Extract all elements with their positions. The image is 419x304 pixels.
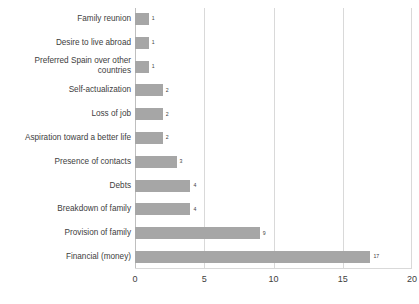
bar-value-label: 1 — [152, 40, 155, 45]
category-label: Self-actualization — [0, 85, 131, 95]
bar-row: 1 — [135, 61, 419, 73]
bar — [135, 84, 163, 96]
x-tick-label: 15 — [338, 274, 348, 284]
bar-row: 4 — [135, 180, 419, 192]
bar-value-label: 4 — [193, 183, 196, 188]
bar-row: 2 — [135, 84, 419, 96]
bar-value-label: 2 — [166, 88, 169, 93]
category-label: Debts — [0, 181, 131, 191]
bar-chart: Family reunion1Desire to live abroad1Pre… — [0, 0, 419, 304]
category-label: Financial (money) — [0, 252, 131, 262]
category-axis-line — [135, 268, 412, 269]
bar-row: 3 — [135, 156, 419, 168]
bar — [135, 180, 190, 192]
bar-value-label: 4 — [193, 207, 196, 212]
x-tick-label: 5 — [202, 274, 207, 284]
bar-row: 4 — [135, 203, 419, 215]
bar — [135, 13, 149, 25]
bar-row: 2 — [135, 132, 419, 144]
bar — [135, 108, 163, 120]
bar-value-label: 1 — [152, 64, 155, 69]
category-label: Preferred Spain over other countries — [0, 56, 131, 77]
x-tick-label: 20 — [407, 274, 417, 284]
bar — [135, 251, 370, 263]
bar-value-label: 3 — [180, 159, 183, 164]
bar — [135, 132, 163, 144]
category-label: Loss of job — [0, 109, 131, 119]
bar — [135, 156, 177, 168]
bar-row: 9 — [135, 227, 419, 239]
category-label: Presence of contacts — [0, 157, 131, 167]
category-label: Family reunion — [0, 14, 131, 24]
bar-value-label: 9 — [263, 231, 266, 236]
bar — [135, 37, 149, 49]
bar-row: 1 — [135, 37, 419, 49]
bar — [135, 61, 149, 73]
bar-row: 1 — [135, 13, 419, 25]
bar-row: 17 — [135, 251, 419, 263]
bar-value-label: 1 — [152, 16, 155, 21]
x-tick-label: 10 — [268, 274, 278, 284]
category-label: Provision of family — [0, 228, 131, 238]
bar — [135, 203, 190, 215]
x-tick-label: 0 — [132, 274, 137, 284]
bar-value-label: 17 — [373, 254, 379, 259]
bar-value-label: 2 — [166, 135, 169, 140]
bar — [135, 227, 260, 239]
category-label: Breakdown of family — [0, 204, 131, 214]
bar-value-label: 2 — [166, 112, 169, 117]
category-label: Aspiration toward a better life — [0, 133, 131, 143]
bar-row: 2 — [135, 108, 419, 120]
category-label: Desire to live abroad — [0, 38, 131, 48]
